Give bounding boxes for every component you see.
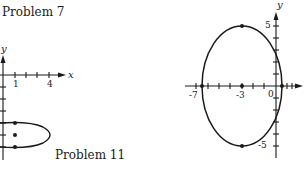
right-tick-5: 5 bbox=[265, 21, 271, 30]
right-tick-0: 0 bbox=[268, 90, 274, 99]
left-tick-4: 4 bbox=[47, 80, 53, 89]
right-tick-neg7: -7 bbox=[189, 91, 198, 100]
left-graph bbox=[0, 55, 66, 160]
right-tick-neg5: -5 bbox=[258, 141, 267, 150]
left-y-axis-label: y bbox=[1, 44, 7, 54]
left-tick-1: 1 bbox=[13, 80, 19, 89]
left-x-axis-label: x bbox=[68, 70, 74, 80]
right-y-axis-label: y bbox=[277, 0, 283, 10]
problem-11-label: Problem 11 bbox=[55, 149, 125, 161]
right-graph bbox=[185, 12, 303, 158]
right-tick-neg3: -3 bbox=[236, 91, 245, 100]
